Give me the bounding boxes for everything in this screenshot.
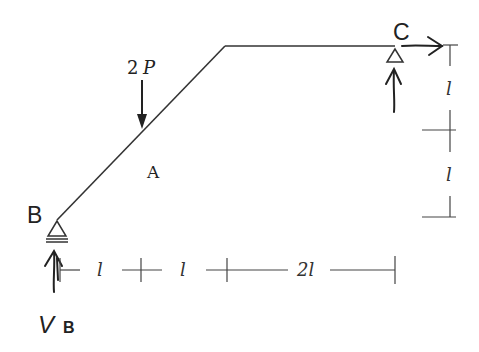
reaction-label-vb-sub: B <box>63 319 75 336</box>
inclined-member <box>57 46 225 220</box>
node-label-b: B <box>27 202 42 228</box>
dim-v-label-2: l <box>446 164 452 185</box>
reaction-label-vb-main: V <box>38 311 56 338</box>
frame-members <box>57 46 395 220</box>
dim-h-label-2: l <box>180 259 186 280</box>
support-c-roller <box>387 49 403 62</box>
dim-v-label-1: l <box>446 78 452 99</box>
support-b-pin <box>46 221 68 242</box>
node-label-a: A <box>146 162 160 182</box>
dim-h-label-3: 2l <box>296 259 314 280</box>
load-symbol-label: P <box>142 57 156 78</box>
frame-diagram: B A C 2 P V B l l 2l l l <box>0 0 479 352</box>
horizontal-dimension <box>60 256 395 284</box>
point-load-arrow-icon <box>137 80 147 129</box>
dim-h-label-1: l <box>97 259 103 280</box>
vertical-dimension <box>422 45 458 217</box>
node-label-c: C <box>393 19 410 45</box>
reaction-arrow-c-vertical-icon <box>386 69 401 112</box>
load-coef-label: 2 <box>127 57 138 78</box>
